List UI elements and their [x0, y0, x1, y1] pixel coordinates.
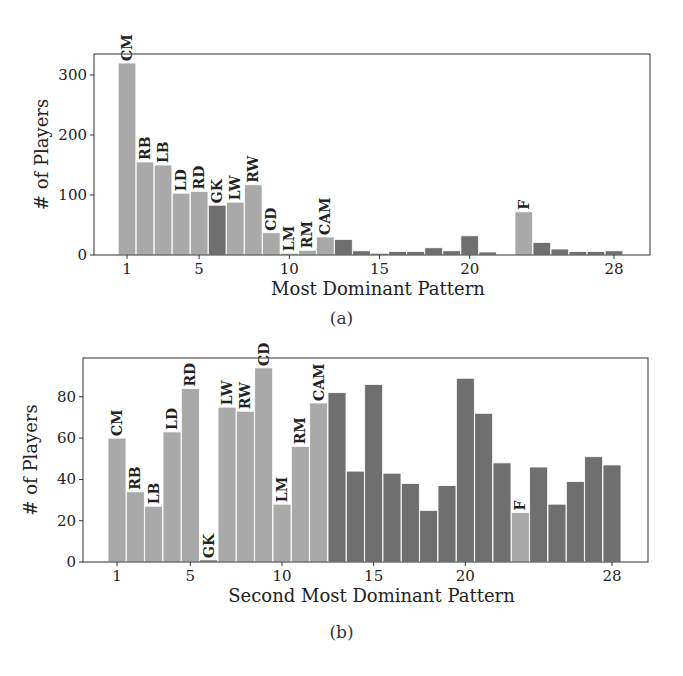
- y-tick-label: 20: [57, 512, 76, 530]
- y-tick-label: 40: [57, 470, 76, 488]
- bar-2: [126, 492, 144, 562]
- bar-chart-second-most-dominant: CMRBLBLDRDGKLWRWCDLMRMCAMF02040608015101…: [0, 0, 683, 676]
- bar-label: F: [512, 500, 528, 510]
- bar-label: RW: [237, 382, 253, 409]
- x-tick-label: 15: [364, 567, 383, 585]
- bar-label: LD: [164, 408, 180, 430]
- bar-label: CM: [109, 409, 125, 436]
- bar-label: GK: [201, 533, 217, 558]
- bar-label: RM: [292, 417, 308, 444]
- bar-label: RB: [127, 466, 143, 490]
- bar-15: [365, 384, 383, 562]
- bar-8: [236, 411, 254, 562]
- bar-24: [530, 467, 548, 562]
- x-tick-label: 20: [456, 567, 475, 585]
- bar-7: [218, 407, 236, 562]
- bar-11: [291, 446, 309, 562]
- bar-label: LM: [274, 477, 290, 502]
- bar-12: [310, 403, 328, 562]
- bar-1: [108, 438, 126, 562]
- bar-label: LB: [146, 482, 162, 504]
- y-tick-label: 0: [66, 553, 76, 571]
- bar-26: [566, 481, 584, 562]
- y-tick-label: 60: [57, 429, 76, 447]
- bar-label: LW: [219, 380, 235, 405]
- bar-21: [475, 413, 493, 562]
- x-tick-label: 5: [186, 567, 196, 585]
- x-tick-label: 10: [272, 567, 291, 585]
- bar-23: [511, 512, 529, 562]
- x-axis-label: Second Most Dominant Pattern: [228, 585, 515, 606]
- bar-label: CAM: [311, 363, 327, 401]
- bar-20: [456, 378, 474, 562]
- caption-b: (b): [0, 622, 683, 642]
- bar-3: [145, 506, 163, 562]
- bar-9: [255, 368, 273, 562]
- chart-panel-b: CMRBLBLDRDGKLWRWCDLMRMCAMF02040608015101…: [0, 0, 683, 676]
- bar-13: [328, 393, 346, 562]
- x-tick-label: 1: [112, 567, 122, 585]
- bar-19: [438, 486, 456, 562]
- x-tick-label: 28: [602, 567, 621, 585]
- bar-18: [420, 510, 438, 562]
- bar-22: [493, 463, 511, 562]
- bar-4: [163, 432, 181, 562]
- y-tick-label: 80: [57, 388, 76, 406]
- bar-label: CD: [256, 343, 272, 366]
- bar-27: [585, 457, 603, 562]
- bar-label: RD: [182, 363, 198, 387]
- bar-25: [548, 504, 566, 562]
- bar-10: [273, 504, 291, 562]
- bar-5: [181, 389, 199, 562]
- bar-17: [401, 484, 419, 562]
- bar-28: [603, 465, 621, 562]
- bar-14: [346, 471, 364, 562]
- bar-16: [383, 473, 401, 562]
- y-axis-label: # of Players: [20, 404, 41, 515]
